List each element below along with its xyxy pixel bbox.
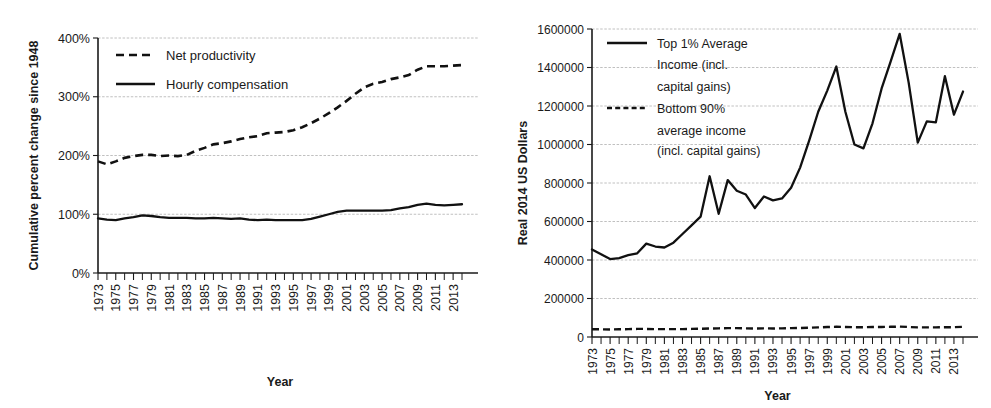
x-tick-label: 1987 xyxy=(712,348,726,375)
x-tick-label: 1993 xyxy=(766,348,780,375)
x-tick-label: 2013 xyxy=(447,284,461,312)
x-axis-title: Year xyxy=(267,375,294,389)
x-tick-label: 1995 xyxy=(785,348,799,375)
y-tick-label: 1000000 xyxy=(537,138,584,152)
x-tick-label: 2001 xyxy=(839,348,853,375)
legend-label-0: Net productivity xyxy=(166,48,256,63)
x-tick-label: 1977 xyxy=(622,348,636,375)
x-tick-label: 1993 xyxy=(269,284,283,312)
x-axis-title: Year xyxy=(764,389,791,403)
y-tick-label: 300% xyxy=(58,90,90,104)
legend[interactable]: Net productivityHourly compensation xyxy=(116,48,288,92)
x-tick-label: 1985 xyxy=(198,284,212,312)
y-tick-label: 400000 xyxy=(544,254,584,268)
x-tick-label: 1975 xyxy=(604,348,618,375)
y-tick-label: 800000 xyxy=(544,177,584,191)
x-tick-label: 1989 xyxy=(730,348,744,375)
series-line-1 xyxy=(98,204,462,220)
top-1-percent-income-chart: 1600000140000012000001000000800000600000… xyxy=(495,0,991,408)
x-tick-label: 1999 xyxy=(821,348,835,375)
y-axis: 400%300%200%100%0% xyxy=(58,32,98,281)
y-tick-label: 1200000 xyxy=(537,100,584,114)
legend-label-1: average income xyxy=(657,124,746,138)
gridlines xyxy=(592,29,978,299)
x-tick-label: 2009 xyxy=(411,284,425,312)
x-tick-label: 1977 xyxy=(127,284,141,312)
x-tick-label: 2007 xyxy=(893,348,907,375)
y-tick-label: 400% xyxy=(58,32,90,46)
y-tick-label: 200000 xyxy=(544,292,584,306)
y-tick-label: 600000 xyxy=(544,215,584,229)
legend-label-0: Top 1% Average xyxy=(657,37,748,51)
legend-label-1: Hourly compensation xyxy=(166,77,288,92)
y-tick-label: 1400000 xyxy=(537,61,584,75)
x-tick-label: 2013 xyxy=(947,348,961,375)
x-tick-label: 1995 xyxy=(287,284,301,312)
y-tick-label: 200% xyxy=(58,149,90,163)
legend-label-1: (incl. capital gains) xyxy=(657,144,761,158)
productivity-pay-gap-chart: 400%300%200%100%0%1973197519771979198119… xyxy=(0,0,495,408)
legend-label-0: Income (incl. xyxy=(657,58,728,72)
series-group xyxy=(592,34,963,330)
y-tick-label: 0 xyxy=(577,331,584,345)
x-tick-label: 1991 xyxy=(748,348,762,375)
x-tick-label: 2005 xyxy=(376,284,390,312)
x-tick-label: 1975 xyxy=(109,284,123,312)
chart-panel-productivity: 400%300%200%100%0%1973197519771979198119… xyxy=(0,0,495,408)
x-tick-label: 2005 xyxy=(875,348,889,375)
x-tick-label: 1981 xyxy=(658,348,672,375)
x-tick-label: 2007 xyxy=(393,284,407,312)
x-tick-label: 1979 xyxy=(640,348,654,375)
series-line-1 xyxy=(592,327,963,330)
x-tick-label: 1991 xyxy=(251,284,265,312)
x-tick-label: 2003 xyxy=(358,284,372,312)
chart-panel-income: 1600000140000012000001000000800000600000… xyxy=(495,0,991,408)
legend-label-0: capital gains) xyxy=(657,80,731,94)
y-axis-title: Real 2014 US Dollars xyxy=(516,121,530,245)
x-tick-label: 1981 xyxy=(163,284,177,312)
gridlines xyxy=(98,38,478,214)
x-tick-label: 1973 xyxy=(586,348,600,375)
x-tick-label: 1985 xyxy=(694,348,708,375)
x-tick-label: 1989 xyxy=(234,284,248,312)
y-axis: 1600000140000012000001000000800000600000… xyxy=(537,23,592,345)
legend-label-1: Bottom 90% xyxy=(657,102,725,116)
x-axis: 1973197519771979198119831985198719891991… xyxy=(586,337,979,375)
x-tick-label: 1997 xyxy=(305,284,319,312)
legend[interactable]: Top 1% AverageIncome (incl.capital gains… xyxy=(607,37,761,158)
x-tick-label: 1999 xyxy=(322,284,336,312)
y-tick-label: 100% xyxy=(58,208,90,222)
x-tick-label: 1973 xyxy=(92,284,106,312)
x-tick-label: 2003 xyxy=(857,348,871,375)
x-tick-label: 1983 xyxy=(676,348,690,375)
y-tick-label: 1600000 xyxy=(537,23,584,37)
x-tick-label: 1979 xyxy=(145,284,159,312)
x-tick-label: 2009 xyxy=(911,348,925,375)
x-tick-label: 2001 xyxy=(340,284,354,312)
y-tick-label: 0% xyxy=(72,267,90,281)
figure-root: 400%300%200%100%0%1973197519771979198119… xyxy=(0,0,991,408)
x-tick-label: 1997 xyxy=(803,348,817,375)
x-axis: 1973197519771979198119831985198719891991… xyxy=(92,273,479,312)
x-tick-label: 2011 xyxy=(929,348,943,374)
x-tick-label: 2011 xyxy=(429,284,443,311)
x-tick-label: 1983 xyxy=(180,284,194,312)
y-axis-title: Cumulative percent change since 1948 xyxy=(27,40,41,270)
x-tick-label: 1987 xyxy=(216,284,230,312)
